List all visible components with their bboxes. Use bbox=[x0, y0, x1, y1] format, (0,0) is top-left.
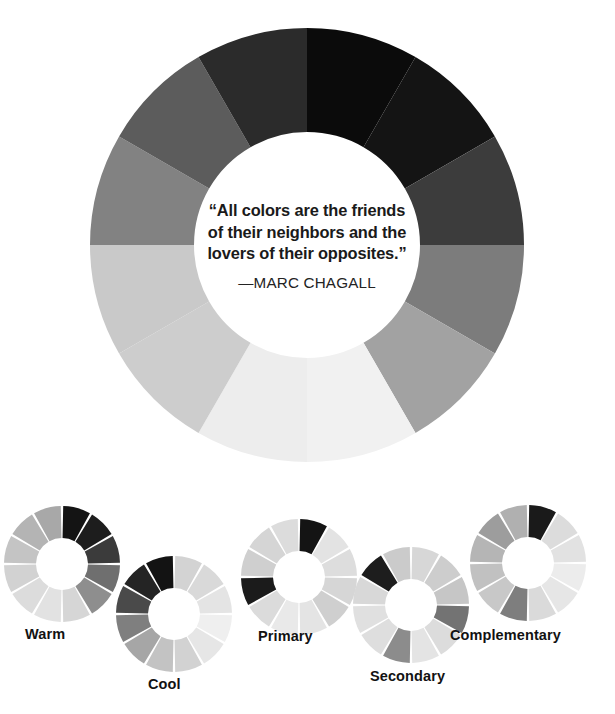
mini-wheel-label-secondary: Secondary bbox=[370, 668, 445, 684]
mini-color-wheels bbox=[0, 0, 615, 714]
mini-wheel-label-cool: Cool bbox=[148, 676, 181, 692]
mini-wheel-label-primary: Primary bbox=[258, 628, 313, 644]
mini-wheel-label-warm: Warm bbox=[25, 626, 65, 642]
poster-canvas: “All colors are the friends of their nei… bbox=[0, 0, 615, 714]
mini-wheel-label-complementary: Complementary bbox=[450, 627, 561, 643]
